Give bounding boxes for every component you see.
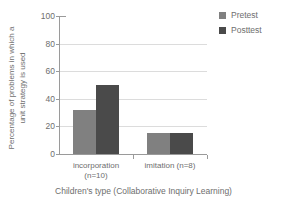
plot-area: 100806040200incorporation(n=10)imitation… <box>59 16 207 155</box>
x-category-label-line1-0: incorporation <box>73 161 119 170</box>
bar-posttest-group1 <box>170 133 193 154</box>
bar-posttest-group0 <box>96 85 119 154</box>
gridline-40 <box>60 99 207 100</box>
y-tick-mark-20 <box>56 126 59 127</box>
legend-item-pretest[interactable]: Pretest <box>219 10 262 20</box>
y-tick-label-60: 60 <box>46 66 55 76</box>
bar-chart: Percentage of problems in which a unit s… <box>0 0 287 204</box>
x-category-label-line2-0: (n=10) <box>73 171 119 181</box>
y-tick-label-80: 80 <box>46 39 55 49</box>
legend-swatch-posttest <box>219 27 226 34</box>
gridline-80 <box>60 44 207 45</box>
y-tick-mark-40 <box>56 99 59 100</box>
chart-legend: Pretest Posttest <box>219 10 262 40</box>
y-tick-label-20: 20 <box>46 121 55 131</box>
legend-item-posttest[interactable]: Posttest <box>219 25 262 35</box>
x-category-label-line1-1: imitation (n=8) <box>145 161 196 170</box>
y-tick-mark-0 <box>56 154 59 155</box>
legend-label-posttest: Posttest <box>231 25 262 35</box>
x-tick-mark-1 <box>207 155 208 159</box>
y-tick-mark-80 <box>56 44 59 45</box>
y-tick-label-40: 40 <box>46 94 55 104</box>
legend-label-pretest: Pretest <box>231 10 258 20</box>
y-axis-title-line1: Percentage of problems in which a <box>7 27 16 150</box>
y-axis-title-line2: unit strategy is used <box>17 9 28 167</box>
y-axis-title: Percentage of problems in which a unit s… <box>2 8 32 168</box>
bar-pretest-group1 <box>147 133 170 154</box>
x-category-label-0: incorporation(n=10) <box>73 161 119 181</box>
y-tick-mark-100 <box>56 16 59 17</box>
gridline-100 <box>60 16 66 17</box>
y-tick-label-100: 100 <box>41 11 55 21</box>
y-tick-mark-60 <box>56 71 59 72</box>
gridline-60 <box>60 71 207 72</box>
y-tick-label-0: 0 <box>50 149 55 159</box>
x-tick-mark-0 <box>133 155 134 159</box>
x-axis-title: Children's type (Collaborative Inquiry L… <box>0 186 287 196</box>
legend-swatch-pretest <box>219 12 226 19</box>
bar-pretest-group0 <box>73 110 96 154</box>
x-category-label-1: imitation (n=8) <box>145 161 196 171</box>
y-axis-line <box>59 16 60 155</box>
